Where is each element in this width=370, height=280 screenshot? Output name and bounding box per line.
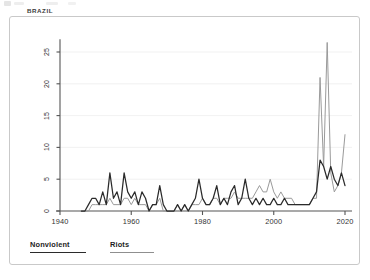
y-tick-label: 0 — [42, 204, 52, 218]
x-tick-label: 2000 — [258, 217, 290, 226]
x-tick-label: 2020 — [329, 217, 361, 226]
line-chart-svg — [0, 0, 370, 280]
legend-swatch-nonviolent — [30, 252, 86, 254]
y-tick-label: 5 — [42, 172, 52, 186]
chart-panel: BRAZIL 0510152025 19401960198020002020 N… — [0, 0, 370, 280]
legend-swatch-riots — [110, 252, 154, 254]
y-tick-label: 10 — [42, 140, 52, 154]
chart-legend: Nonviolent Riots — [30, 240, 154, 253]
legend-item-nonviolent[interactable]: Nonviolent — [30, 240, 86, 253]
legend-label-nonviolent: Nonviolent — [30, 240, 86, 249]
data-series — [81, 42, 345, 211]
y-tick-label: 15 — [42, 109, 52, 123]
chart-plot-area — [0, 0, 370, 280]
x-tick-label: 1960 — [115, 217, 147, 226]
axis-lines — [56, 39, 352, 211]
legend-label-riots: Riots — [110, 240, 154, 249]
x-axis-ticks — [60, 211, 345, 215]
x-tick-label: 1980 — [187, 217, 219, 226]
y-tick-label: 20 — [42, 77, 52, 91]
y-tick-label: 25 — [42, 45, 52, 59]
x-tick-label: 1940 — [44, 217, 76, 226]
legend-item-riots[interactable]: Riots — [110, 240, 154, 253]
gridlines — [58, 52, 352, 179]
